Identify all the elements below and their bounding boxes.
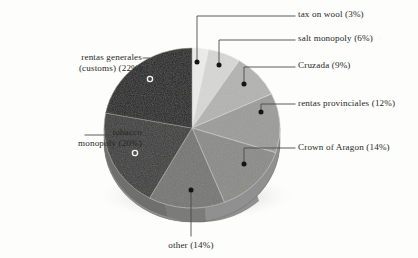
marker-cruzada <box>242 82 247 87</box>
pie-chart-figure: tax on wool (3%) salt monopoly (6%) Cruz… <box>0 0 418 258</box>
label-other: other (14%) <box>139 240 243 251</box>
marker-tax-on-wool <box>195 60 200 65</box>
label-cruzada: Cruzada (9%) <box>298 60 351 71</box>
marker-rentas-provinciales <box>259 110 264 115</box>
label-tax-on-wool: tax on wool (3%) <box>298 9 364 20</box>
label-tobacco-monopoly: tobacco monopoly (20%) <box>4 127 142 150</box>
label-tobacco-monopoly-line2: monopoly (20%) <box>4 138 142 149</box>
label-crown-of-aragon: Crown of Aragon (14%) <box>298 142 390 153</box>
label-rentas-generales-line2: (customs) (22%) <box>8 63 142 74</box>
label-rentas-generales: rentas generales (customs) (22%) <box>8 52 142 75</box>
marker-other <box>189 188 194 193</box>
label-rentas-generales-line1: rentas generales <box>8 52 142 63</box>
label-salt-monopoly: salt monopoly (6%) <box>298 33 373 44</box>
label-rentas-provinciales: rentas provinciales (12%) <box>298 98 395 109</box>
marker-crown-of-aragon <box>242 162 247 167</box>
marker-salt-monopoly <box>217 63 222 68</box>
label-tobacco-monopoly-line1: tobacco <box>4 127 142 138</box>
